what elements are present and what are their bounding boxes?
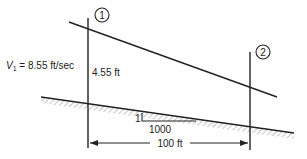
velocity-value: = 8.55 ft/sec — [17, 60, 75, 71]
slope-rise-label: 1 — [135, 113, 141, 124]
distance-label: 100 ft — [157, 138, 182, 149]
section-2-label: 2 — [260, 47, 266, 58]
open-channel-diagram: 1 2 V1 = 8.55 ft/sec 4.55 ft 1 1000 100 … — [0, 0, 307, 159]
section-2-marker: 2 — [256, 45, 270, 59]
distance-dimension: 100 ft — [90, 138, 248, 149]
section-1-label: 1 — [99, 10, 105, 21]
slope-run-label: 1000 — [149, 124, 172, 135]
water-surface-line — [69, 22, 277, 97]
velocity-label: V1 = 8.55 ft/sec — [6, 60, 74, 72]
depth-label: 4.55 ft — [92, 67, 120, 78]
section-1-marker: 1 — [95, 8, 109, 22]
